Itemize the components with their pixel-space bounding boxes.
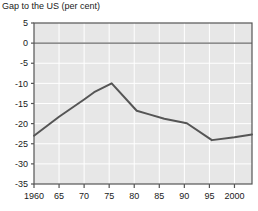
y-tick-label: -5 [20,58,28,68]
y-tick-label: -35 [15,179,28,189]
x-axis-ticks [34,184,234,188]
chart-container: Gap to the US (per cent) 50-5-10-15-20-2… [0,0,258,211]
y-tick-label: -30 [15,159,28,169]
x-tick-label: 95 [204,191,214,201]
x-tick-label: 90 [179,191,189,201]
line-chart-plot: 50-5-10-15-20-25-30-35 19606570758085909… [0,0,258,211]
x-tick-label: 85 [154,191,164,201]
y-tick-label: -20 [15,119,28,129]
x-tick-label: 80 [129,191,139,201]
x-tick-label: 1960 [24,191,44,201]
y-tick-label: 5 [23,18,28,28]
x-tick-label: 70 [79,191,89,201]
y-tick-label: 0 [23,38,28,48]
x-tick-label: 75 [104,191,114,201]
x-axis-tick-labels: 1960657075808590952000 [24,191,244,201]
y-tick-label: -10 [15,79,28,89]
x-tick-label: 2000 [224,191,244,201]
y-tick-label: -15 [15,99,28,109]
y-axis-tick-labels: 50-5-10-15-20-25-30-35 [15,18,28,189]
x-tick-label: 65 [54,191,64,201]
y-tick-label: -25 [15,139,28,149]
